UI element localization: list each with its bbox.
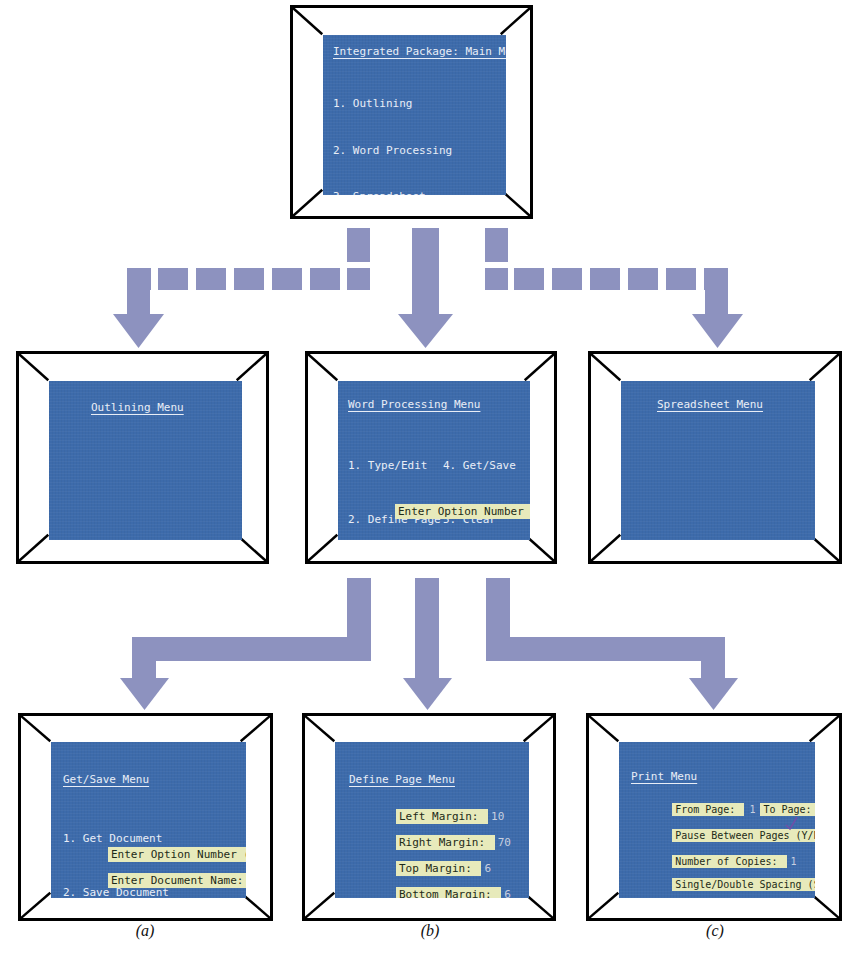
main-menu-options: 1. Outlining 2. Word Processing 3. Sprea… [333,65,452,195]
wp-option-4[interactable]: 4. Get/Save [443,457,516,475]
screen-spreadsheet: Spreadsheet Menu [621,381,815,540]
screen-get-save: Get/Save Menu 1. Get Document 2. Save Do… [51,742,246,898]
wp-prompt-label: Enter Option Number (1-7): [398,505,530,518]
pen-check-mark-icon [785,817,799,831]
copies-label: Number of Copies: [675,856,783,867]
screen-define-page: Define Page Menu Left Margin: 10 Right M… [335,742,529,898]
bottom-margin-label: Bottom Margin: [399,888,498,898]
screen-print: Print Menu From Page: 1To Page: 5 Pause … [619,742,815,898]
wp-prompt[interactable]: Enter Option Number (1-7): 4 [342,491,530,532]
screen-main-menu: Integrated Package: Main Menu 1. Outlini… [323,35,506,195]
monitor-outlining: Outlining Menu [16,351,269,564]
wp-menu-title: Word Processing Menu [348,398,480,411]
monitor-print: Print Menu From Page: 1To Page: 5 Pause … [586,713,842,921]
copies-value[interactable]: 1 [791,856,797,867]
from-page-label: From Page: [675,804,741,815]
main-menu-prompt[interactable]: Enter Option Number (1-8): 2 [327,193,506,195]
caption-c: (c) [685,922,745,940]
getsave-docname-label: Enter Document Name: [111,874,246,887]
main-menu-option-1[interactable]: 1. Outlining [333,96,452,112]
print-menu-title: Print Menu [631,770,697,783]
definepage-menu-title: Define Page Menu [349,773,455,786]
from-page-value[interactable]: 1 [749,804,755,815]
monitor-word-processing: Word Processing Menu 1. Type/Edit 2. Def… [305,351,557,564]
screen-outlining: Outlining Menu [49,381,242,540]
outlining-menu-title: Outlining Menu [91,401,184,414]
screen-word-processing: Word Processing Menu 1. Type/Edit 2. Def… [338,381,530,540]
main-menu-option-2[interactable]: 2. Word Processing [333,143,452,159]
caption-b: (b) [400,922,460,940]
getsave-menu-title: Get/Save Menu [63,773,149,786]
main-menu-title: Integrated Package: Main Menu [333,45,506,58]
to-page-label: To Page: [763,804,815,815]
getsave-docname-field[interactable]: Enter Document Name: B:TAXLTR [55,860,246,898]
monitor-main-menu: Integrated Package: Main Menu 1. Outlini… [290,5,533,219]
definepage-field-bottom-margin[interactable]: Bottom Margin: 6 [343,874,511,898]
caption-a: (a) [115,922,175,940]
print-begin-row[interactable]: Press F10 to Begin Printing [624,888,815,898]
monitor-get-save: Get/Save Menu 1. Get Document 2. Save Do… [18,713,273,921]
monitor-spreadsheet: Spreadsheet Menu [588,351,842,564]
bottom-margin-value[interactable]: 6 [504,888,511,898]
monitor-define-page: Define Page Menu Left Margin: 10 Right M… [302,713,556,921]
spreadsheet-menu-title: Spreadsheet Menu [657,398,763,411]
diagram-canvas: Integrated Package: Main Menu 1. Outlini… [0,0,859,953]
pause-label: Pause Between Pages (Y/N): [675,830,815,841]
right-margin-value[interactable]: 70 [498,836,511,849]
wp-option-1[interactable]: 1. Type/Edit [348,457,441,475]
